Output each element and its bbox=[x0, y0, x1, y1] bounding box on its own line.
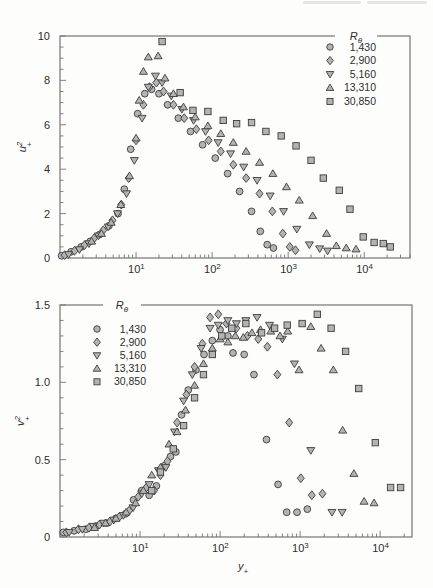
data-point-diamond bbox=[230, 160, 237, 169]
data-point-diamond bbox=[243, 174, 250, 183]
data-point-square bbox=[200, 371, 206, 377]
data-point-circle bbox=[212, 155, 219, 162]
x-tick-label: 103 bbox=[280, 262, 297, 276]
data-point-triangle-up bbox=[317, 344, 325, 351]
data-point-triangle-down bbox=[280, 209, 288, 216]
x-tick-label: 102 bbox=[204, 262, 221, 276]
data-point-square bbox=[205, 108, 211, 114]
plot-border bbox=[60, 305, 412, 537]
data-point-square bbox=[387, 244, 393, 250]
data-point-triangle-up bbox=[139, 68, 147, 75]
data-point-diamond bbox=[170, 100, 177, 109]
data-point-square bbox=[219, 333, 225, 339]
x-tick-label: 104 bbox=[356, 262, 373, 276]
data-point-triangle-up bbox=[242, 148, 250, 155]
data-point-square bbox=[308, 157, 314, 163]
data-point-triangle-down bbox=[328, 509, 336, 516]
y-tick-label: 6 bbox=[44, 119, 50, 131]
legend-label: 5,160 bbox=[350, 68, 376, 80]
data-point-triangle-up bbox=[329, 366, 337, 373]
data-point-square bbox=[190, 107, 196, 113]
data-point-triangle-down bbox=[338, 509, 346, 516]
data-point-triangle-up bbox=[208, 344, 216, 351]
data-point-triangle-up bbox=[161, 74, 169, 81]
data-point-diamond bbox=[174, 418, 181, 427]
figure-page: 1011021031040246810u2+Rθ1,4302,9005,1601… bbox=[0, 0, 433, 588]
legend-label: 2,900 bbox=[120, 336, 146, 348]
data-point-diamond bbox=[217, 147, 224, 156]
data-point-triangle-down bbox=[253, 315, 261, 322]
data-point-triangle-up bbox=[323, 230, 331, 237]
data-point-circle bbox=[327, 44, 333, 50]
data-point-square bbox=[347, 206, 353, 212]
data-point-circle bbox=[263, 436, 270, 443]
data-point-diamond bbox=[256, 189, 263, 198]
data-point-circle bbox=[270, 245, 277, 252]
legend-label: 13,310 bbox=[344, 81, 376, 93]
data-point-circle bbox=[224, 170, 231, 177]
data-point-triangle-down bbox=[123, 191, 131, 198]
data-point-triangle-down bbox=[307, 448, 315, 455]
data-point-diamond bbox=[308, 491, 315, 500]
data-point-diamond bbox=[286, 418, 293, 427]
data-point-square bbox=[263, 128, 269, 134]
data-point-triangle-down bbox=[290, 361, 298, 368]
x-tick-label: 103 bbox=[292, 541, 309, 555]
data-point-square bbox=[159, 38, 165, 44]
data-point-square bbox=[177, 89, 183, 95]
chart-u2plus: 1011021031040246810u2+Rθ1,4302,9005,1601… bbox=[15, 29, 410, 275]
data-point-triangle-up bbox=[199, 360, 207, 367]
data-point-triangle-down bbox=[326, 72, 334, 78]
turbulence-intensity-scatter-figure: 1011021031040246810u2+Rθ1,4302,9005,1601… bbox=[0, 0, 433, 588]
data-point-square bbox=[293, 143, 299, 149]
data-point-square bbox=[170, 446, 176, 452]
data-point-square bbox=[360, 234, 366, 240]
y-tick-label: 1.0 bbox=[35, 376, 50, 388]
legend-label: 1,430 bbox=[120, 323, 146, 335]
data-point-triangle-down bbox=[240, 164, 248, 171]
data-point-square bbox=[229, 325, 235, 331]
data-point-square bbox=[209, 351, 215, 357]
data-point-triangle-down bbox=[266, 193, 274, 200]
data-point-square bbox=[320, 175, 326, 181]
data-point-square bbox=[380, 240, 386, 246]
x-tick-label: 101 bbox=[132, 541, 149, 555]
y-axis-label: v2+ bbox=[13, 415, 32, 426]
data-point-circle bbox=[141, 90, 148, 97]
y-tick-label: 10 bbox=[38, 30, 50, 42]
data-point-circle bbox=[209, 337, 216, 344]
data-point-square bbox=[387, 484, 393, 490]
data-point-square bbox=[314, 311, 320, 317]
data-point-triangle-down bbox=[130, 158, 138, 165]
data-point-square bbox=[243, 320, 249, 326]
x-tick-label: 102 bbox=[212, 541, 229, 555]
y-tick-label: 4 bbox=[44, 163, 50, 175]
data-point-triangle-up bbox=[217, 130, 225, 137]
data-point-square bbox=[327, 98, 333, 104]
data-point-square bbox=[191, 395, 197, 401]
data-point-triangle-up bbox=[370, 499, 378, 506]
data-point-triangle-up bbox=[350, 470, 358, 477]
data-point-diamond bbox=[264, 342, 271, 351]
data-point-triangle-up bbox=[309, 212, 317, 219]
data-point-triangle-up bbox=[248, 329, 256, 336]
data-point-square bbox=[271, 325, 277, 331]
data-point-circle bbox=[248, 208, 255, 215]
data-point-square bbox=[299, 320, 305, 326]
data-point-triangle-up bbox=[269, 170, 277, 177]
data-point-square bbox=[258, 330, 264, 336]
legend-label: 30,850 bbox=[114, 375, 146, 387]
data-point-circle bbox=[94, 326, 100, 332]
data-point-triangle-down bbox=[151, 73, 159, 80]
data-point-triangle-down bbox=[202, 129, 210, 136]
data-point-circle bbox=[251, 371, 258, 378]
x-tick-label: 104 bbox=[372, 541, 389, 555]
data-point-triangle-down bbox=[214, 140, 222, 147]
data-point-triangle-down bbox=[316, 246, 324, 253]
data-point-triangle-down bbox=[293, 226, 301, 233]
series-5160 bbox=[65, 315, 346, 537]
data-point-circle bbox=[283, 509, 290, 516]
data-point-triangle-down bbox=[93, 353, 101, 359]
x-axis-label: y+ bbox=[237, 560, 249, 576]
data-point-triangle-up bbox=[342, 244, 350, 251]
